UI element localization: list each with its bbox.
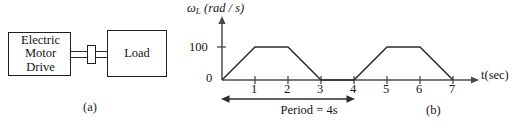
figure-root: Electric Motor Drive Load (a) (0, 0, 517, 131)
period-annotation-label: Period = 4s (234, 103, 384, 118)
electric-motor-drive-label: Electric Motor Drive (21, 34, 60, 75)
x-tick-label-7: 7 (449, 82, 455, 97)
shaft-line-lower-left (70, 57, 88, 58)
period-arrowhead-left (221, 95, 230, 103)
x-axis-label: t(sec) (481, 68, 509, 83)
waveform-trace (222, 47, 453, 80)
x-tick-label-6: 6 (416, 82, 422, 97)
load-label: Load (124, 47, 150, 61)
shaft-coupling-icon (87, 45, 96, 64)
y-axis-units: (rad / s) (204, 1, 244, 15)
y-axis-arrowhead (218, 16, 225, 24)
x-tick-label-5: 5 (383, 82, 389, 97)
panel-b-waveform-chart: ωL (rad / s) 100 0 1 2 3 4 5 6 7 t(sec) … (180, 0, 517, 131)
panel-a-block-diagram: Electric Motor Drive Load (a) (0, 0, 180, 131)
y-axis-label: ωL (rad / s) (187, 1, 244, 16)
x-tick-label-2: 2 (284, 82, 290, 97)
y-tick-label-0: 0 (206, 71, 212, 86)
x-tick-label-1: 1 (251, 82, 257, 97)
load-block: Load (107, 30, 167, 77)
caption-a: (a) (0, 100, 180, 115)
shaft-line-upper-left (70, 51, 88, 52)
y-axis-symbol: ω (187, 1, 196, 15)
y-tick-label-100: 100 (189, 40, 208, 55)
x-tick-label-3: 3 (317, 82, 323, 97)
caption-b: (b) (426, 103, 441, 118)
x-axis-arrowhead (471, 76, 479, 83)
y-axis-subscript: L (196, 6, 201, 16)
x-tick-label-4: 4 (350, 82, 356, 97)
electric-motor-drive-block: Electric Motor Drive (8, 32, 71, 76)
